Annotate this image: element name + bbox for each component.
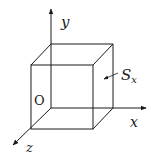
surface-pointer-arrow [104,73,118,79]
surface-label: Sx [121,66,137,85]
cube [31,44,113,129]
cube-diagram: y x z O Sx [0,0,155,168]
z-axis-label: z [25,140,33,155]
surface-label-main: S [121,66,131,84]
x-axis-label: x [130,114,138,130]
y-axis-label: y [60,13,70,31]
origin-label: O [34,93,45,108]
surface-label-subscript: x [131,74,137,85]
